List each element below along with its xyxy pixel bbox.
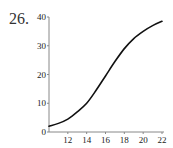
data-curve bbox=[49, 21, 162, 126]
y-tick-label: 10 bbox=[37, 98, 47, 108]
y-tick-label: 0 bbox=[42, 127, 47, 137]
x-tick-label: 14 bbox=[82, 135, 92, 145]
x-tick-label: 20 bbox=[139, 135, 149, 145]
x-tick-label: 22 bbox=[158, 135, 167, 145]
line-chart: 121416182022 010203040 bbox=[0, 0, 173, 148]
x-tick-label: 16 bbox=[101, 135, 111, 145]
x-tick-label: 12 bbox=[63, 135, 72, 145]
x-tick-label: 18 bbox=[120, 135, 130, 145]
y-tick-label: 40 bbox=[37, 12, 47, 22]
y-tick-label: 30 bbox=[37, 41, 47, 51]
y-tick-label: 20 bbox=[37, 70, 47, 80]
x-axis-ticks: 121416182022 bbox=[63, 132, 166, 145]
y-axis-ticks: 010203040 bbox=[37, 12, 49, 137]
